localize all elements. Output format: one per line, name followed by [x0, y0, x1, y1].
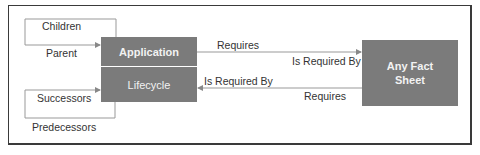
lifecycle-label: Lifecycle: [128, 79, 171, 91]
application-label: Application: [119, 46, 179, 58]
is-required-by-top-label: Is Required By: [292, 55, 361, 67]
any-fact-sheet-label: Any Fact Sheet: [380, 59, 440, 87]
application-node: Application: [101, 37, 197, 66]
parent-label: Parent: [46, 47, 77, 59]
is-required-by-bottom-label: Is Required By: [204, 75, 273, 87]
any-fact-sheet-node: Any Fact Sheet: [362, 40, 458, 106]
children-label: Children: [42, 20, 81, 32]
successors-label: Successors: [37, 92, 91, 104]
predecessors-label: Predecessors: [32, 121, 96, 133]
requires-top-label: Requires: [217, 39, 259, 51]
requires-bottom-label: Requires: [304, 90, 346, 102]
lifecycle-node: Lifecycle: [101, 67, 197, 102]
